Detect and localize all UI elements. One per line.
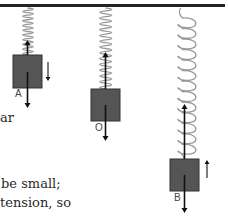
text-fragment-ar: ar [0, 111, 14, 124]
position-label-o: O [95, 123, 103, 133]
text-fragment-be-small: be small; [1, 177, 61, 190]
motion-arrow-up-b [205, 160, 210, 178]
position-label-b: B [174, 193, 181, 203]
spring-b [178, 8, 196, 159]
motion-arrow-down-a [46, 62, 51, 81]
position-label-a: A [15, 89, 22, 99]
spring-mass-diagram: ar be small; tension, so A O B [0, 0, 228, 218]
text-fragment-tension-so: tension, so [0, 196, 71, 209]
